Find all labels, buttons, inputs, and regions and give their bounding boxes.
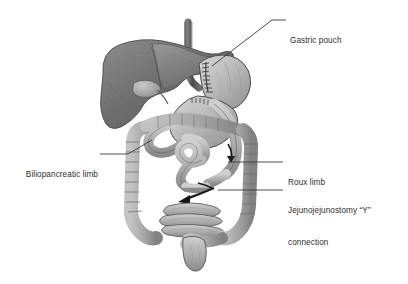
label-jejunojejunostomy: Jejunojejunostomy “Y” connection [288,185,371,269]
label-biliopancreatic-limb-line-0: Biliopancreatic limb [2,170,98,181]
label-gastric-pouch-line-0: Gastric pouch [290,36,342,47]
figure-canvas: Gastric pouch Biliopancreatic limb Roux … [0,0,408,284]
label-jejunojejunostomy-line-0: Jejunojejunostomy “Y” [288,206,371,217]
label-gastric-pouch: Gastric pouch [290,15,342,68]
small-bowel-group [159,203,223,237]
rectum-group [183,236,207,271]
label-jejunojejunostomy-line-1: connection [288,238,371,249]
jejunal-loops-group [179,143,206,188]
label-biliopancreatic-limb: Biliopancreatic limb [2,149,98,202]
